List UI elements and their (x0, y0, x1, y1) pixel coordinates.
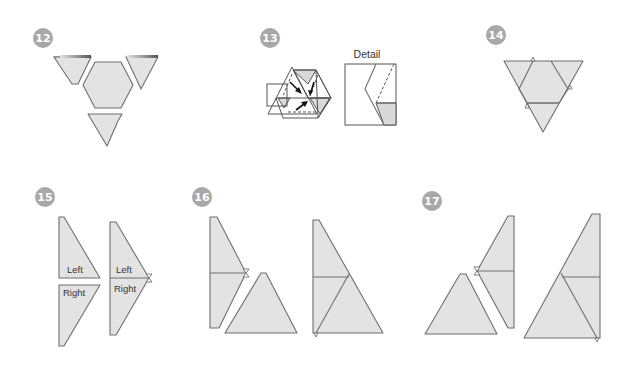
arrowhead-icon (308, 90, 313, 96)
fold-shadow (60, 55, 91, 58)
svg-text:17: 17 (424, 195, 439, 208)
joined-piece (524, 214, 600, 338)
svg-text:14: 14 (488, 29, 504, 42)
quilt-instruction-diagram: 12 12 13 (0, 0, 641, 369)
triangle-piece-bottom (88, 114, 122, 146)
step-15: 15 Left Right Left Right (35, 187, 152, 346)
svg-text:16: 16 (194, 191, 210, 204)
fold-shadow (127, 55, 158, 58)
svg-text:12: 12 (35, 32, 50, 45)
detail-label: Detail (354, 48, 381, 60)
svg-text:13: 13 (262, 32, 277, 45)
step-badge-15: 15 (35, 187, 55, 207)
step-13: 12 13 Detail (260, 28, 396, 125)
joined-unit (524, 214, 600, 342)
hexagon-assembly (267, 67, 331, 118)
detail-inset: Detail (345, 48, 396, 125)
hexagon-piece (83, 62, 133, 108)
step-badge-16: 16 (192, 187, 212, 207)
step-14: 14 (486, 25, 583, 132)
right-label: Right (114, 283, 137, 294)
left-label: Left (67, 264, 83, 275)
step-16: 16 (192, 187, 383, 337)
alignment-mark (314, 333, 318, 337)
arrow-icon (296, 104, 304, 110)
step-badge-14: 14 (486, 25, 506, 45)
right-piece-separate: Right (59, 285, 100, 346)
joined-left-right-pieces: Left Right (110, 222, 152, 335)
step-17: 17 (422, 191, 600, 342)
left-label: Left (116, 264, 132, 275)
alignment-mark (595, 338, 599, 342)
step-badge-17: 17 (422, 191, 442, 211)
step-12: 12 (33, 28, 158, 146)
svg-text:15: 15 (37, 191, 52, 204)
joined-unit (313, 220, 383, 337)
step-badge-13: 12 13 (260, 28, 280, 48)
large-triangle (504, 61, 583, 132)
step-badge-12: 12 (33, 28, 53, 48)
right-label: Right (63, 287, 86, 298)
alignment-mark (531, 57, 535, 61)
left-piece-separate: Left (59, 217, 100, 278)
